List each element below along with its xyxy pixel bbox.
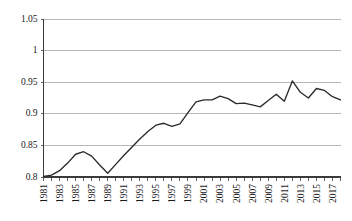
x-tick-label: 1989 [103,184,113,203]
y-tick-label: 0.9 [26,108,38,118]
gridlines [44,19,341,145]
x-tick-label: 1993 [135,184,145,203]
y-tick-label: 1 [33,45,38,55]
y-tick-label: 0.95 [21,77,38,87]
x-tick-label: 1985 [71,184,81,203]
x-tick-label: 2001 [199,184,209,203]
data-series [44,81,341,176]
x-tick-label: 2009 [264,184,274,203]
x-tick-label: 2017 [328,184,338,203]
x-tick-label: 1981 [39,184,49,203]
x-tick-label: 2003 [215,184,225,203]
y-axis-tick-labels: 0.80.850.90.9511.05 [21,14,38,182]
x-tick-label: 2007 [248,184,258,203]
x-tick-label: 1999 [183,184,193,203]
x-axis-tick-labels: 1981198319851987198919911993199519971999… [39,184,338,203]
line-chart: 0.80.850.90.9511.05 19811983198519871989… [0,0,352,221]
x-tick-label: 2011 [280,184,290,203]
x-tick-label: 2005 [232,184,242,203]
x-tick-label: 2013 [296,184,306,203]
x-tick-label: 1997 [167,184,177,203]
y-tick-label: 0.85 [21,140,38,150]
x-tick-label: 1987 [87,184,97,203]
x-tick-label: 1983 [55,184,65,203]
series-line [44,81,341,176]
x-tick-label: 1991 [119,184,129,203]
x-tick-label: 1995 [151,184,161,203]
x-tick-label: 2015 [312,184,322,203]
chart-canvas: 0.80.850.90.9511.05 19811983198519871989… [0,0,352,221]
y-tick-label: 0.8 [26,172,38,182]
y-tick-label: 1.05 [21,14,38,24]
